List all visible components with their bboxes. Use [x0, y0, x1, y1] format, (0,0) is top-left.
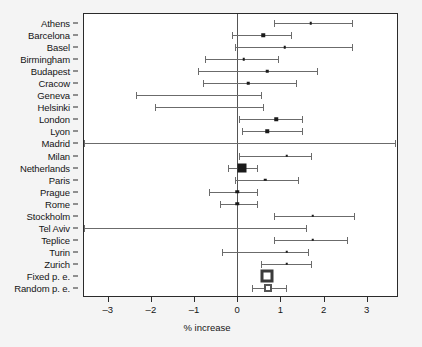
y-axis-tick-label: Tel Aviv	[39, 222, 70, 233]
ci-cap-lower	[84, 140, 85, 147]
ci-cap-lower	[222, 249, 223, 256]
ci-cap-upper	[395, 140, 396, 147]
y-axis-tick-mark	[73, 35, 78, 36]
estimate-marker	[247, 82, 250, 85]
ci-cap-lower	[274, 20, 275, 27]
ci-cap-upper	[298, 177, 299, 184]
ci-cap-upper	[311, 153, 312, 160]
y-axis-tick-mark	[73, 143, 78, 144]
x-axis-tick-mark	[324, 297, 325, 302]
confidence-interval-line	[84, 143, 395, 144]
ci-cap-lower	[235, 177, 236, 184]
y-axis-tick-label: Rome	[45, 198, 70, 209]
ci-cap-upper	[302, 116, 303, 123]
estimate-marker	[286, 251, 289, 254]
x-axis-tick-mark	[367, 297, 368, 302]
ci-cap-lower	[239, 153, 240, 160]
y-axis-labels: AthensBarcelonaBaselBirminghamBudapestCr…	[0, 13, 78, 297]
ci-cap-lower	[205, 56, 206, 63]
ci-cap-lower	[209, 189, 210, 196]
y-axis-tick-label: Budapest	[31, 66, 70, 77]
x-axis-tick-mark	[237, 297, 238, 302]
y-axis-tick-label: Teplice	[41, 234, 70, 245]
x-axis-tick-label: 0	[235, 304, 240, 315]
confidence-interval-line	[136, 95, 261, 96]
ci-cap-upper	[352, 44, 353, 51]
ci-cap-upper	[308, 249, 309, 256]
random-effect-summary-marker	[264, 284, 272, 292]
y-axis-tick-label: Madrid	[42, 138, 70, 149]
fixed-effect-summary-marker	[260, 269, 273, 282]
y-axis-tick-mark	[73, 251, 78, 252]
ci-cap-upper	[257, 189, 258, 196]
estimate-marker	[284, 46, 287, 49]
y-axis-tick-label: Paris	[49, 174, 70, 185]
y-axis-tick-mark	[73, 288, 78, 289]
y-axis-tick-label: Cracow	[38, 78, 70, 89]
confidence-interval-line	[198, 71, 317, 72]
ci-cap-lower	[242, 128, 243, 135]
x-axis-tick-mark	[194, 297, 195, 302]
confidence-interval-line	[242, 131, 302, 132]
x-axis-tick-mark	[108, 297, 109, 302]
ci-cap-upper	[291, 32, 292, 39]
y-axis-tick-mark	[73, 107, 78, 108]
forest-plot-figure: AthensBarcelonaBaselBirminghamBudapestCr…	[0, 0, 422, 347]
y-axis-tick-mark	[73, 23, 78, 24]
confidence-interval-line	[84, 228, 306, 229]
estimate-marker	[242, 58, 245, 61]
ci-cap-upper	[263, 104, 264, 111]
y-axis-tick-label: Athens	[41, 18, 70, 29]
y-axis-tick-label: Random p. e.	[14, 283, 70, 294]
estimate-marker	[266, 130, 270, 134]
y-axis-tick-mark	[73, 47, 78, 48]
ci-cap-lower	[228, 165, 229, 172]
estimate-marker	[264, 178, 267, 181]
estimate-marker	[236, 190, 240, 194]
ci-cap-upper	[302, 128, 303, 135]
y-axis-tick-label: Prague	[40, 186, 70, 197]
y-axis-tick-mark	[73, 167, 78, 168]
y-axis-tick-label: Birmingham	[20, 54, 70, 65]
y-axis-tick-mark	[73, 275, 78, 276]
y-axis-tick-label: Lyon	[50, 126, 70, 137]
estimate-marker	[238, 163, 247, 172]
y-axis-tick-mark	[73, 59, 78, 60]
estimate-marker	[286, 154, 289, 157]
plot-frame	[83, 13, 398, 297]
y-axis-tick-label: Geneva	[37, 90, 70, 101]
y-axis-tick-label: Milan	[48, 150, 70, 161]
ci-cap-lower	[274, 237, 275, 244]
x-axis-tick-label: 2	[321, 304, 326, 315]
ci-cap-upper	[296, 80, 297, 87]
confidence-interval-line	[155, 107, 263, 108]
y-axis-tick-mark	[73, 131, 78, 132]
ci-cap-upper	[306, 225, 307, 232]
y-axis-tick-label: Barcelona	[28, 30, 70, 41]
y-axis-tick-mark	[73, 215, 78, 216]
ci-cap-upper	[257, 165, 258, 172]
y-axis-tick-label: London	[39, 114, 70, 125]
x-axis-tick-label: –1	[189, 304, 200, 315]
ci-cap-lower	[220, 201, 221, 208]
x-axis-tick-mark	[151, 297, 152, 302]
ci-cap-upper	[347, 237, 348, 244]
ci-cap-lower	[235, 44, 236, 51]
ci-cap-upper	[311, 261, 312, 268]
y-axis-tick-mark	[73, 263, 78, 264]
y-axis-tick-label: Zurich	[44, 258, 70, 269]
x-axis-title-label: % increase	[184, 322, 231, 333]
y-axis-tick-label: Basel	[47, 42, 70, 53]
confidence-interval-line	[222, 252, 308, 253]
x-axis-tick-label: –2	[146, 304, 157, 315]
ci-cap-lower	[232, 32, 233, 39]
ci-cap-lower	[198, 68, 199, 75]
estimate-marker	[309, 22, 312, 25]
ci-cap-upper	[354, 213, 355, 220]
confidence-interval-line	[235, 47, 352, 48]
ci-cap-lower	[136, 92, 137, 99]
y-axis-tick-mark	[73, 191, 78, 192]
x-axis-tick-label: –3	[102, 304, 113, 315]
ci-cap-lower	[261, 261, 262, 268]
ci-cap-upper	[317, 68, 318, 75]
